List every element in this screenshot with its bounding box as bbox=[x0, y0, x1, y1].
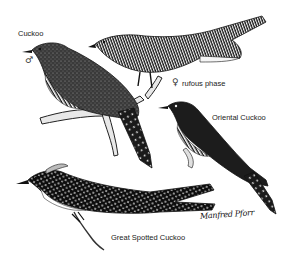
rufous-phase-label: rufous phase bbox=[182, 80, 225, 88]
oriental-cuckoo-label: Oriental Cuckoo bbox=[212, 114, 266, 122]
great-spotted-cuckoo-label: Great Spotted Cuckoo bbox=[111, 234, 185, 242]
male-symbol-icon: ♂ bbox=[25, 56, 33, 65]
female-symbol-icon: ♀ bbox=[172, 78, 179, 87]
birds-artwork bbox=[0, 0, 292, 272]
cuckoo-illustration-plate: Cuckoo ♂ ♀ rufous phase Oriental Cuckoo … bbox=[0, 0, 292, 272]
cuckoo-label: Cuckoo bbox=[18, 30, 43, 38]
